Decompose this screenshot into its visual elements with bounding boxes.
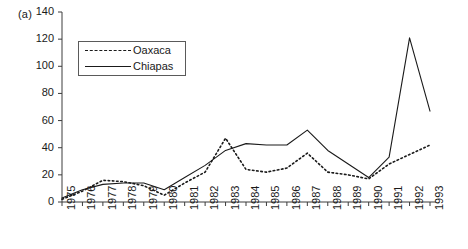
x-tick-label: 1991 bbox=[393, 186, 404, 210]
x-tick-label: 1985 bbox=[270, 186, 281, 210]
chart-figure: (a) 020406080100120140 19751976197719781… bbox=[0, 0, 468, 249]
x-tick-label: 1988 bbox=[332, 186, 343, 210]
x-axis-tick-labels: 1975197619771978197919801981198219831984… bbox=[0, 0, 468, 249]
x-tick-label: 1976 bbox=[86, 186, 97, 210]
legend-label-chiapas: Chiapas bbox=[133, 60, 173, 72]
chart-legend: Oaxaca Chiapas bbox=[78, 41, 186, 76]
x-tick-label: 1980 bbox=[168, 186, 179, 210]
legend-swatch-dashed-icon bbox=[85, 50, 131, 51]
x-tick-label: 1981 bbox=[189, 186, 200, 210]
x-tick-label: 1987 bbox=[311, 186, 322, 210]
x-tick-label: 1984 bbox=[250, 186, 261, 210]
legend-label-oaxaca: Oaxaca bbox=[133, 44, 171, 56]
x-tick-label: 1978 bbox=[127, 186, 138, 210]
x-tick-label: 1992 bbox=[414, 186, 425, 210]
x-tick-label: 1975 bbox=[66, 186, 77, 210]
x-tick-label: 1986 bbox=[291, 186, 302, 210]
legend-entry-oaxaca: Oaxaca bbox=[79, 42, 187, 59]
legend-swatch-solid-icon bbox=[85, 66, 131, 67]
x-tick-label: 1989 bbox=[352, 186, 363, 210]
x-tick-label: 1977 bbox=[107, 186, 118, 210]
x-tick-label: 1979 bbox=[148, 186, 159, 210]
x-tick-label: 1993 bbox=[434, 186, 445, 210]
legend-entry-chiapas: Chiapas bbox=[79, 58, 187, 75]
x-tick-label: 1990 bbox=[373, 186, 384, 210]
x-tick-label: 1982 bbox=[209, 186, 220, 210]
x-tick-label: 1983 bbox=[230, 186, 241, 210]
